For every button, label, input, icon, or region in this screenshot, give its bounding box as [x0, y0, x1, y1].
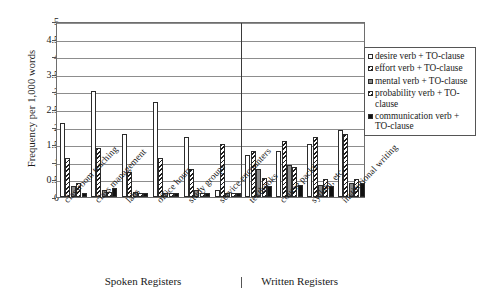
bar	[60, 123, 65, 197]
bar-group	[150, 23, 181, 197]
legend-item-label: effort verb + TO-clause	[375, 63, 463, 73]
bar	[153, 102, 158, 197]
chart-legend: desire verb + TO-clauseeffort verb + TO-…	[364, 47, 476, 136]
legend-item[interactable]: probability verb + TO-clause	[368, 88, 473, 109]
bar	[338, 130, 343, 197]
legend-item[interactable]: communication verb + TO-clause	[368, 111, 473, 132]
chart-figure: Frequency per 1,000 words 00.511.522.533…	[0, 0, 480, 307]
x-axis-labels: classroom teachingclass managementlabsof…	[56, 198, 386, 268]
bar-group	[273, 23, 304, 197]
legend-item[interactable]: desire verb + TO-clause	[368, 51, 473, 61]
bar	[82, 193, 87, 197]
bar	[205, 193, 210, 197]
bar	[343, 134, 348, 197]
legend-swatch-icon	[368, 54, 373, 59]
legend-item-label: communication verb + TO-clause	[375, 111, 473, 132]
register-caption-separator	[241, 277, 242, 288]
bar	[91, 91, 96, 197]
legend-item-label: desire verb + TO-clause	[375, 51, 464, 61]
spoken-registers-caption: Spoken Registers	[105, 275, 182, 287]
legend-item-label: mental verb + TO-clause	[375, 76, 467, 86]
legend-item[interactable]: effort verb + TO-clause	[368, 63, 473, 73]
legend-item[interactable]: mental verb + TO-clause	[368, 76, 473, 86]
written-registers-caption: Written Registers	[261, 275, 338, 287]
bar-group	[57, 23, 88, 197]
bar	[236, 193, 241, 197]
legend-item-label: probability verb + TO-clause	[375, 88, 473, 109]
bar	[143, 193, 148, 197]
legend-swatch-icon	[368, 66, 373, 71]
legend-swatch-icon	[368, 114, 373, 119]
legend-swatch-icon	[368, 79, 373, 84]
bar	[174, 193, 179, 197]
legend-swatch-icon	[368, 91, 373, 96]
register-captions: Spoken RegistersWritten Registers	[56, 275, 366, 293]
